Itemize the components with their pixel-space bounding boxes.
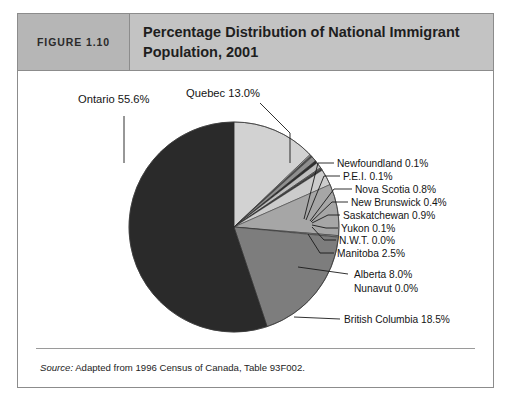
pie-label-saskatchewan: Saskatchewan 0.9% [343, 210, 435, 221]
source-label: Source: [40, 362, 73, 373]
pie-slices [129, 122, 339, 332]
source-note: Source: Adapted from 1996 Census of Cana… [40, 362, 305, 373]
pie-label-nova-scotia: Nova Scotia 0.8% [355, 184, 436, 195]
pie-label-pei: P.E.I. 0.1% [343, 171, 393, 182]
pie-label-manitoba: Manitoba 2.5% [337, 248, 405, 259]
figure-frame: FIGURE 1.10 Percentage Distribution of N… [17, 13, 494, 388]
figure-title-cell: Percentage Distribution of National Immi… [130, 14, 493, 70]
source-text: Adapted from 1996 Census of Canada, Tabl… [73, 362, 305, 373]
chart-body: Ontario 55.6% Quebec 13.0% Newfoundland … [18, 71, 493, 387]
pie-label-ontario: Ontario 55.6% [78, 93, 150, 105]
pie-label-nwt: N.W.T. 0.0% [339, 235, 395, 246]
leader-line-british-columbia [294, 317, 340, 319]
pie-label-yukon: Yukon 0.1% [341, 223, 395, 234]
pie-label-new-brunswick: New Brunswick 0.4% [351, 197, 447, 208]
figure-number-cell: FIGURE 1.10 [18, 14, 130, 70]
pie-chart-svg: Ontario 55.6% Quebec 13.0% Newfoundland … [18, 71, 493, 388]
pie-label-newfoundland: Newfoundland 0.1% [337, 158, 428, 169]
pie-label-nunavut: Nunavut 0.0% [354, 283, 418, 294]
figure-header: FIGURE 1.10 Percentage Distribution of N… [18, 14, 493, 71]
pie-label-british-columbia: British Columbia 18.5% [344, 314, 450, 325]
figure-number-label: FIGURE 1.10 [37, 36, 110, 48]
pie-label-quebec: Quebec 13.0% [186, 87, 260, 99]
source-divider [36, 348, 475, 349]
pie-chart: Ontario 55.6% Quebec 13.0% Newfoundland … [18, 71, 493, 388]
figure-title: Percentage Distribution of National Immi… [143, 23, 479, 62]
pie-label-alberta: Alberta 8.0% [354, 269, 412, 280]
